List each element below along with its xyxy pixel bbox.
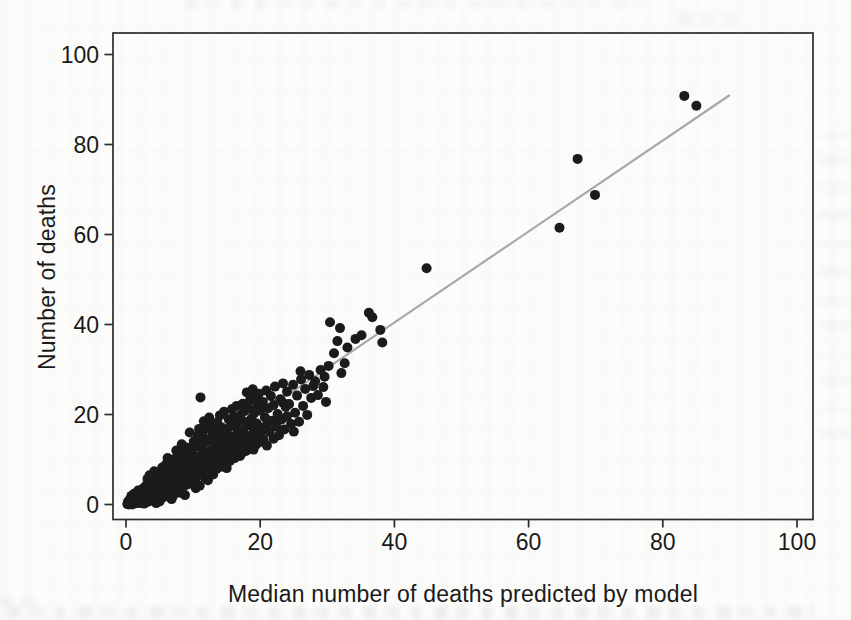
data-point xyxy=(336,368,346,378)
data-point xyxy=(325,317,335,327)
data-point xyxy=(573,154,583,164)
data-point xyxy=(191,483,201,493)
data-point xyxy=(185,428,195,438)
data-point xyxy=(298,401,308,411)
y-tick-label: 40 xyxy=(73,312,99,338)
y-tick-label: 100 xyxy=(61,42,99,68)
data-point xyxy=(310,376,320,386)
x-tick-label: 80 xyxy=(650,529,676,555)
y-tick-label: 60 xyxy=(73,222,99,248)
data-point xyxy=(335,323,345,333)
data-point xyxy=(324,361,334,371)
data-point xyxy=(160,468,170,478)
data-point xyxy=(691,101,701,111)
y-axis-title: Number of deaths xyxy=(34,184,61,370)
book-page: { "figure": { "xlabel": "Median number o… xyxy=(0,0,851,620)
y-tick-label: 0 xyxy=(86,492,99,518)
data-point xyxy=(177,439,187,449)
data-point xyxy=(296,366,306,376)
data-point xyxy=(318,382,328,392)
data-point xyxy=(340,358,350,368)
y-tick-label: 80 xyxy=(73,132,99,158)
y-tick-label: 20 xyxy=(73,402,99,428)
data-point xyxy=(292,391,302,401)
data-point xyxy=(679,91,689,101)
x-tick-label: 0 xyxy=(120,529,133,555)
data-point xyxy=(284,399,294,409)
scatter-plot: 020406080100020406080100 xyxy=(0,0,851,620)
data-point xyxy=(422,263,432,273)
x-tick-label: 20 xyxy=(247,529,273,555)
data-point xyxy=(357,330,367,340)
data-point xyxy=(332,336,342,346)
data-point xyxy=(342,343,352,353)
data-point xyxy=(321,397,331,407)
x-axis-title: Median number of deaths predicted by mod… xyxy=(113,581,813,608)
data-point xyxy=(169,454,179,464)
data-point xyxy=(367,312,377,322)
data-point xyxy=(302,410,312,420)
data-point xyxy=(590,190,600,200)
data-point xyxy=(377,338,387,348)
x-tick-label: 100 xyxy=(778,529,816,555)
data-point xyxy=(329,348,339,358)
data-point xyxy=(375,325,385,335)
data-point xyxy=(143,474,153,484)
data-point xyxy=(266,391,276,401)
data-point xyxy=(196,392,206,402)
data-point xyxy=(289,427,299,437)
data-point xyxy=(180,490,190,500)
data-point xyxy=(294,417,304,427)
data-point xyxy=(555,223,565,233)
data-point xyxy=(290,408,300,418)
x-tick-label: 40 xyxy=(382,529,408,555)
data-point xyxy=(320,372,330,382)
x-tick-label: 60 xyxy=(516,529,542,555)
